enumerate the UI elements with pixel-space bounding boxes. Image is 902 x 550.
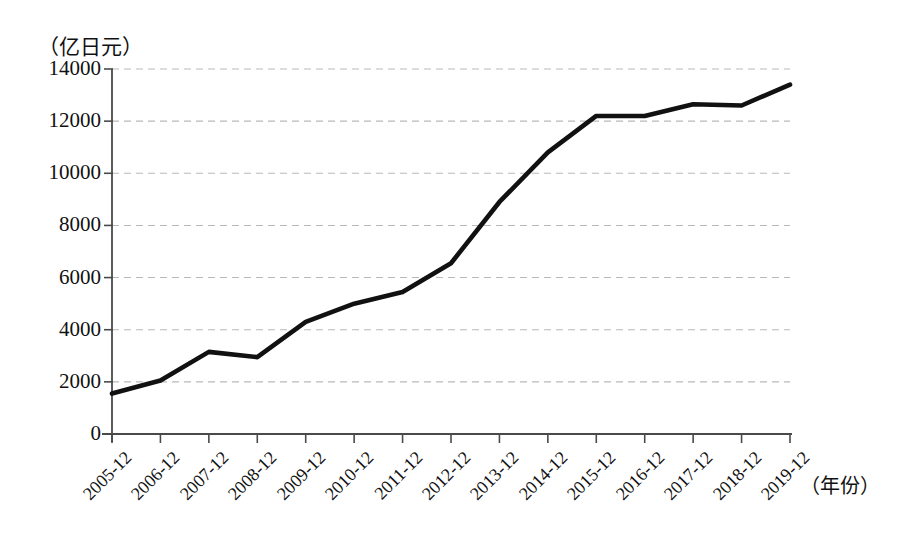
y-tick-label: 2000 [9, 371, 101, 392]
y-tick-label: 8000 [9, 214, 101, 235]
chart-container: （亿日元） （年份） 02000400060008000100001200014… [0, 0, 902, 550]
y-tick-label: 4000 [9, 319, 101, 340]
y-tick-label: 10000 [9, 162, 101, 183]
y-tick-label: 12000 [9, 110, 101, 131]
series-line [112, 85, 790, 394]
axes [102, 69, 792, 442]
axis-ticks [104, 69, 790, 443]
y-tick-label: 0 [9, 423, 101, 444]
y-tick-label: 14000 [9, 58, 101, 79]
data-series-line [112, 85, 790, 394]
gridlines [112, 69, 790, 434]
y-tick-label: 6000 [9, 267, 101, 288]
